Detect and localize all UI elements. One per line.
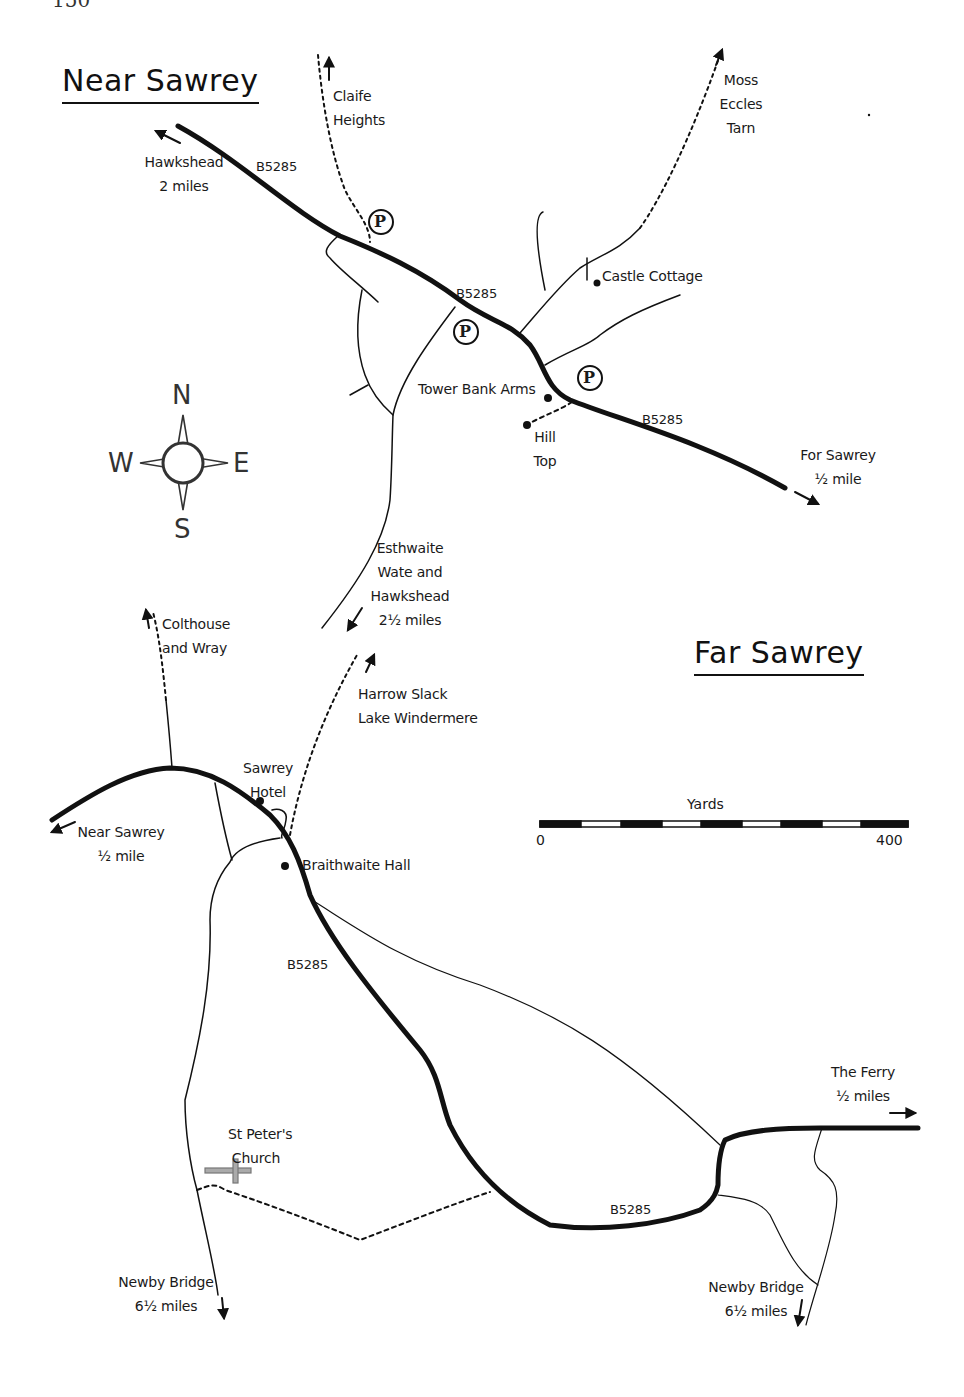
road-label-b5285: B5285 <box>610 1198 651 1222</box>
label-sawrey-hotel: Sawrey Hotel <box>240 756 296 804</box>
scale-bar-max: 400 <box>876 832 903 848</box>
map-canvas <box>0 0 964 1397</box>
label-the-ferry: The Ferry ½ miles <box>828 1060 898 1108</box>
label-newby-bridge-east: Newby Bridge 6½ miles <box>708 1275 804 1323</box>
parking-symbol: P <box>459 320 471 344</box>
label-st-peters-church: St Peter's Church <box>228 1122 284 1170</box>
label-braithwaite-hall: Braithwaite Hall <box>302 853 410 877</box>
road-label-b5285: B5285 <box>256 155 297 179</box>
title-far-sawrey: Far Sawrey <box>694 636 864 676</box>
label-colthouse-wray: Colthouse and Wray <box>162 612 230 660</box>
label-esthwaite-water: Esthwaite Wate and Hawkshead 2½ miles <box>370 536 450 632</box>
label-hawkshead: Hawkshead 2 miles <box>144 150 224 198</box>
label-newby-bridge-west: Newby Bridge 6½ miles <box>118 1270 214 1318</box>
road-b5285-near <box>178 126 785 488</box>
compass-rose-icon <box>140 415 228 510</box>
parking-symbol: P <box>374 210 386 234</box>
label-castle-cottage: Castle Cottage <box>602 264 703 288</box>
far-sawrey-map <box>52 610 918 1325</box>
compass-east: E <box>233 448 249 478</box>
scale-bar-min: 0 <box>536 832 545 848</box>
road-label-b5285: B5285 <box>456 282 497 306</box>
compass-west: W <box>108 448 134 478</box>
label-claife-heights: Claife Heights <box>333 84 385 132</box>
label-harrow-slack: Harrow Slack Lake Windermere <box>358 682 478 730</box>
compass-north: N <box>172 380 191 410</box>
compass-south: S <box>174 514 191 544</box>
label-near-sawrey-half-mile: Near Sawrey ½ mile <box>74 820 168 868</box>
road-b5285-far <box>52 768 918 1228</box>
label-hill-top: Hill Top <box>530 425 560 473</box>
parking-symbol: P <box>583 366 595 390</box>
scale-bar-unit: Yards <box>687 796 724 812</box>
road-label-b5285: B5285 <box>287 953 328 977</box>
title-near-sawrey: Near Sawrey <box>62 64 259 104</box>
label-far-sawrey-half-mile: For Sawrey ½ mile <box>796 443 880 491</box>
road-label-b5285: B5285 <box>642 408 683 432</box>
label-moss-eccles-tarn: Moss Eccles Tarn <box>716 68 766 140</box>
scale-bar <box>540 821 908 827</box>
label-tower-bank-arms: Tower Bank Arms <box>418 377 536 401</box>
